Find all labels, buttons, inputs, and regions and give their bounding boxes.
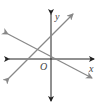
origin-label: O: [40, 61, 47, 72]
line-negative-slope: [8, 34, 92, 78]
x-axis-label: x: [88, 63, 94, 74]
coordinate-plane: y x O: [0, 0, 101, 104]
y-axis-label: y: [54, 11, 60, 22]
